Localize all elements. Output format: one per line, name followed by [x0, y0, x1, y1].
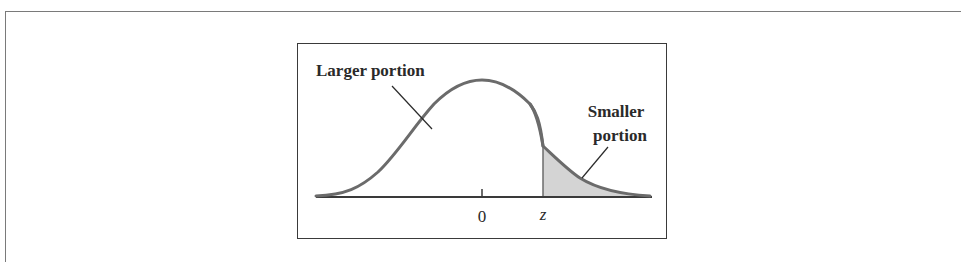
smaller-portion-leader [582, 147, 608, 178]
tick-label-z: z [539, 205, 547, 224]
normal-curve-diagram: Larger portion Smaller portion 0 z [0, 0, 961, 262]
tick-label-zero: 0 [478, 207, 487, 226]
larger-portion-leader [392, 86, 432, 129]
smaller-portion-label-line1: Smaller [588, 102, 645, 121]
larger-portion-label: Larger portion [316, 61, 425, 80]
smaller-portion-label-line2: portion [593, 126, 647, 145]
smaller-portion-shaded-region [543, 146, 650, 197]
